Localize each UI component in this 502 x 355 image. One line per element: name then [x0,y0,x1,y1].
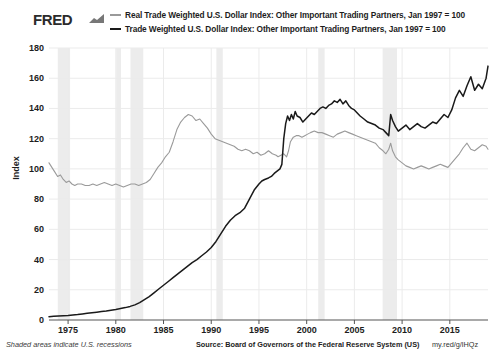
axis-lines [49,320,488,324]
legend-item-nominal: Trade Weighted U.S. Dollar Index: Other … [110,22,465,35]
y-tick-label: 60 [10,224,44,234]
y-axis-ticks: 020406080100120140160180 [0,0,44,355]
y-tick-label: 20 [10,285,44,295]
x-tick-label: 2005 [344,325,364,335]
y-tick-label: 120 [10,134,44,144]
x-tick-label: 1975 [58,325,78,335]
source-note: Source: Board of Governors of the Federa… [196,340,419,349]
legend-label-real: Real Trade Weighted U.S. Dollar Index: O… [125,10,465,20]
recession-note: Shaded areas indicate U.S. recessions [6,340,132,349]
y-tick-label: 100 [10,164,44,174]
x-tick-label: 2000 [297,325,317,335]
chart-header: FRED Real Trade Weighted U.S. Dollar Ind… [0,0,502,40]
x-tick-label: 1985 [154,325,174,335]
chart-legend: Real Trade Weighted U.S. Dollar Index: O… [110,8,465,36]
x-tick-label: 2010 [392,325,412,335]
legend-label-nominal: Trade Weighted U.S. Dollar Index: Other … [125,24,446,34]
short-url[interactable]: my.red/g/lHQz [432,340,478,349]
x-tick-label: 1980 [106,325,126,335]
legend-item-real: Real Trade Weighted U.S. Dollar Index: O… [110,8,465,21]
y-tick-label: 160 [10,73,44,83]
fred-sparkline-icon [88,14,105,24]
y-tick-label: 180 [10,43,44,53]
y-tick-label: 40 [10,255,44,265]
y-tick-label: 80 [10,194,44,204]
x-tick-label: 2015 [440,325,460,335]
x-tick-label: 1995 [249,325,269,335]
legend-swatch-nominal [110,28,121,30]
fred-chart [0,0,502,355]
y-tick-label: 0 [10,315,44,325]
legend-swatch-real [110,14,121,16]
x-tick-label: 1990 [201,325,221,335]
y-tick-label: 140 [10,103,44,113]
series-lines [49,66,488,317]
